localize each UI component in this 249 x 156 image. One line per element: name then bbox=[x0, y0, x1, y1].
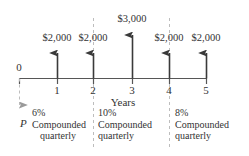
segment-2-rate: 10% bbox=[98, 107, 152, 119]
segment-3-frequency: quarterly bbox=[175, 130, 229, 142]
segment-1-frequency: quarterly bbox=[32, 130, 86, 142]
segment-3-rate: 8% bbox=[175, 107, 229, 119]
principal-symbol-label: P bbox=[20, 118, 27, 129]
cash-flow-label-year-2: $2,000 bbox=[79, 33, 108, 44]
segment-3-compounding: Compounded bbox=[175, 119, 229, 131]
axis-ticks bbox=[20, 79, 207, 85]
tick-label-0: 0 bbox=[16, 62, 22, 73]
segment-1-compounding: Compounded bbox=[32, 119, 86, 131]
cash-flow-label-year-5: $2,000 bbox=[192, 33, 221, 44]
cash-flow-label-year-3: $3,000 bbox=[118, 14, 147, 25]
tick-label-3: 3 bbox=[129, 85, 135, 96]
cash-flow-diagram: 0 $2,000 $2,000 $3,000 $2,000 $2,000 1 2… bbox=[0, 0, 249, 156]
cash-flow-label-year-4: $2,000 bbox=[155, 33, 184, 44]
cash-flow-label-year-1: $2,000 bbox=[43, 33, 72, 44]
tick-label-1: 1 bbox=[54, 85, 60, 96]
segment-annotation-1: 6% Compounded quarterly bbox=[32, 107, 86, 142]
tick-label-4: 4 bbox=[166, 85, 172, 96]
tick-label-5: 5 bbox=[203, 85, 209, 96]
segment-1-rate: 6% bbox=[32, 107, 86, 119]
segment-annotation-2: 10% Compounded quarterly bbox=[98, 107, 152, 142]
tick-label-2: 2 bbox=[90, 85, 96, 96]
segment-annotation-3: 8% Compounded quarterly bbox=[175, 107, 229, 142]
segment-2-frequency: quarterly bbox=[98, 130, 152, 142]
segment-2-compounding: Compounded bbox=[98, 119, 152, 131]
